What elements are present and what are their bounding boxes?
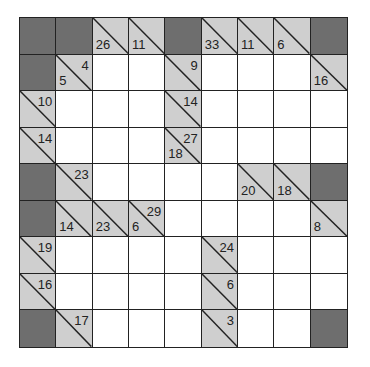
entry-cell[interactable]	[56, 128, 92, 165]
down-clue: 11	[132, 38, 146, 51]
clue-cell: 26	[93, 18, 129, 55]
entry-cell[interactable]	[93, 164, 129, 201]
entry-cell[interactable]	[274, 55, 310, 92]
entry-cell[interactable]	[129, 164, 165, 201]
clue-cell: 10	[20, 91, 56, 128]
entry-cell[interactable]	[202, 201, 238, 238]
clue-cell: 20	[238, 164, 274, 201]
across-clue: 4	[81, 59, 88, 72]
blocked-cell	[311, 310, 347, 347]
clue-cell: 17	[56, 310, 92, 347]
clue-cell: 9	[165, 55, 201, 92]
across-clue: 24	[220, 241, 234, 254]
clue-cell: 24	[202, 237, 238, 274]
entry-cell[interactable]	[274, 274, 310, 311]
across-clue: 16	[38, 278, 52, 291]
down-clue: 11	[241, 38, 255, 51]
entry-cell[interactable]	[274, 201, 310, 238]
down-clue: 5	[59, 74, 66, 87]
entry-cell[interactable]	[165, 237, 201, 274]
down-clue: 20	[241, 184, 255, 197]
clue-cell: 11	[238, 18, 274, 55]
entry-cell[interactable]	[202, 128, 238, 165]
blocked-cell	[20, 55, 56, 92]
entry-cell[interactable]	[311, 274, 347, 311]
entry-cell[interactable]	[238, 55, 274, 92]
clue-cell: 6	[202, 274, 238, 311]
entry-cell[interactable]	[56, 237, 92, 274]
entry-cell[interactable]	[238, 310, 274, 347]
clue-cell: 296	[129, 201, 165, 238]
blocked-cell	[311, 18, 347, 55]
entry-cell[interactable]	[93, 310, 129, 347]
clue-cell: 11	[129, 18, 165, 55]
entry-cell[interactable]	[129, 310, 165, 347]
entry-cell[interactable]	[129, 91, 165, 128]
clue-cell: 2718	[165, 128, 201, 165]
blocked-cell	[20, 18, 56, 55]
across-clue: 6	[227, 278, 234, 291]
clue-cell: 14	[56, 201, 92, 238]
entry-cell[interactable]	[93, 274, 129, 311]
clue-cell: 3	[202, 310, 238, 347]
across-clue: 27	[183, 132, 197, 145]
entry-cell[interactable]	[129, 237, 165, 274]
down-clue: 6	[132, 220, 139, 233]
entry-cell[interactable]	[93, 91, 129, 128]
entry-cell[interactable]	[274, 310, 310, 347]
entry-cell[interactable]	[129, 128, 165, 165]
down-clue: 18	[277, 184, 291, 197]
entry-cell[interactable]	[93, 128, 129, 165]
entry-cell[interactable]	[56, 274, 92, 311]
entry-cell[interactable]	[311, 128, 347, 165]
entry-cell[interactable]	[129, 274, 165, 311]
blocked-cell	[20, 164, 56, 201]
entry-cell[interactable]	[56, 91, 92, 128]
entry-cell[interactable]	[238, 91, 274, 128]
across-clue: 3	[227, 314, 234, 327]
entry-cell[interactable]	[165, 201, 201, 238]
down-clue: 23	[96, 220, 110, 233]
entry-cell[interactable]	[165, 164, 201, 201]
entry-cell[interactable]	[238, 237, 274, 274]
across-clue: 29	[147, 205, 161, 218]
blocked-cell	[20, 201, 56, 238]
clue-cell: 16	[20, 274, 56, 311]
entry-cell[interactable]	[274, 237, 310, 274]
entry-cell[interactable]	[202, 164, 238, 201]
down-clue: 26	[96, 38, 110, 51]
entry-cell[interactable]	[311, 91, 347, 128]
down-clue: 14	[59, 220, 73, 233]
entry-cell[interactable]	[238, 201, 274, 238]
entry-cell[interactable]	[311, 237, 347, 274]
entry-cell[interactable]	[165, 310, 201, 347]
entry-cell[interactable]	[93, 55, 129, 92]
across-clue: 10	[38, 95, 52, 108]
entry-cell[interactable]	[238, 274, 274, 311]
blocked-cell	[20, 310, 56, 347]
across-clue: 19	[38, 241, 52, 254]
clue-cell: 19	[20, 237, 56, 274]
down-clue: 16	[314, 74, 328, 87]
entry-cell[interactable]	[129, 55, 165, 92]
clue-cell: 23	[93, 201, 129, 238]
down-clue: 6	[277, 38, 284, 51]
entry-cell[interactable]	[274, 91, 310, 128]
blocked-cell	[311, 164, 347, 201]
across-clue: 23	[74, 168, 88, 181]
down-clue: 18	[168, 147, 182, 160]
blocked-cell	[165, 18, 201, 55]
entry-cell[interactable]	[165, 274, 201, 311]
blocked-cell	[56, 18, 92, 55]
clue-cell: 33	[202, 18, 238, 55]
entry-cell[interactable]	[202, 91, 238, 128]
clue-cell: 16	[311, 55, 347, 92]
entry-cell[interactable]	[274, 128, 310, 165]
entry-cell[interactable]	[202, 55, 238, 92]
clue-cell: 14	[165, 91, 201, 128]
down-clue: 8	[314, 220, 321, 233]
entry-cell[interactable]	[93, 237, 129, 274]
entry-cell[interactable]	[238, 128, 274, 165]
clue-cell: 23	[56, 164, 92, 201]
clue-cell: 45	[56, 55, 92, 92]
